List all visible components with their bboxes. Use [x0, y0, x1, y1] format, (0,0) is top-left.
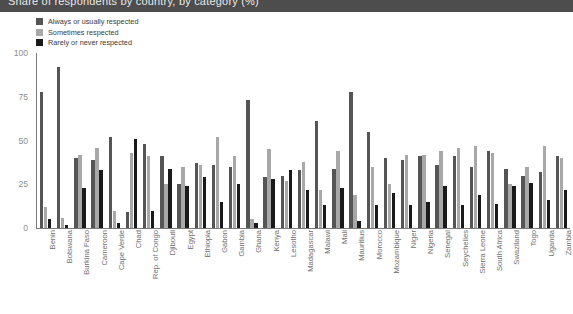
bar	[109, 137, 112, 228]
bar	[495, 204, 498, 229]
bar	[289, 170, 292, 228]
bar	[405, 155, 408, 229]
bar	[457, 148, 460, 229]
bar	[285, 181, 288, 228]
bar	[426, 202, 429, 228]
bar	[271, 179, 274, 228]
bar	[556, 156, 559, 228]
bar-group	[71, 53, 88, 228]
bar	[117, 223, 120, 228]
bar	[195, 163, 198, 228]
bar	[91, 160, 94, 228]
x-axis-label: Botswana	[65, 230, 74, 263]
bar	[521, 176, 524, 229]
bar	[254, 223, 257, 228]
x-axis-label: Ghana	[254, 230, 263, 253]
x-axis-label: Ethiopia	[203, 230, 212, 257]
x-axis-label: Morocco	[375, 230, 384, 259]
bar	[487, 151, 490, 228]
x-axis-label: Uganda	[547, 230, 556, 257]
bar-group	[123, 53, 140, 228]
bar	[529, 183, 532, 229]
bar-group	[243, 53, 260, 228]
x-axis-label: Mali	[340, 230, 349, 244]
bar	[474, 146, 477, 228]
legend-swatch-sometimes	[36, 29, 43, 36]
bar	[439, 151, 442, 228]
bar	[323, 205, 326, 228]
bar	[95, 148, 98, 229]
x-axis-label: Burkina Faso	[82, 230, 91, 275]
bar	[340, 188, 343, 228]
bar-group	[209, 53, 226, 228]
bar-group	[553, 53, 570, 228]
bar	[281, 176, 284, 229]
bar	[512, 186, 515, 228]
legend-label-rarely: Rarely or never respected	[48, 38, 132, 47]
legend-swatch-always	[36, 18, 43, 25]
bar-group	[261, 53, 278, 228]
x-axis-label: Seychelles	[461, 230, 470, 267]
x-axis-label: Mozambique	[392, 230, 401, 273]
bar	[375, 205, 378, 228]
x-axis-label: Djibouti	[168, 230, 177, 255]
bar	[525, 167, 528, 228]
bar	[267, 149, 270, 228]
bar	[357, 221, 360, 228]
y-axis-tick-label: 100	[0, 48, 28, 58]
bar	[306, 190, 309, 229]
x-axis-labels: BeninBotswanaBurkina FasoCameroonCape Ve…	[36, 230, 570, 314]
bar	[61, 218, 64, 229]
bar	[151, 211, 154, 229]
bar	[298, 170, 301, 228]
bar	[461, 205, 464, 228]
bar	[263, 177, 266, 228]
x-axis-label: Chad	[134, 230, 143, 248]
bar	[143, 144, 146, 228]
bar	[435, 165, 438, 228]
bar	[177, 184, 180, 228]
bar	[216, 137, 219, 228]
bar	[203, 177, 206, 228]
page-title: Share of respondents by country, by cate…	[8, 0, 259, 8]
bar	[168, 169, 171, 229]
x-axis-label: Madagascar	[306, 230, 315, 272]
legend-label-sometimes: Sometimes respected	[48, 28, 119, 37]
bar	[470, 167, 473, 228]
bar	[564, 190, 567, 229]
bar	[164, 184, 167, 228]
bar	[250, 219, 253, 228]
bar-group	[226, 53, 243, 228]
x-axis-label: Cape Verde	[117, 230, 126, 270]
x-axis-label: Gambia	[237, 230, 246, 257]
bar	[181, 167, 184, 228]
x-axis-label: Sierra Leone	[478, 230, 487, 273]
x-axis-label: Zambia	[564, 230, 573, 255]
x-axis-label: Togo	[529, 230, 538, 246]
chart-title-bar: Share of respondents by country, by cate…	[0, 0, 573, 12]
bar	[160, 156, 163, 228]
bar	[74, 158, 77, 228]
bar-group	[157, 53, 174, 228]
bar	[220, 202, 223, 228]
y-axis-tick-label: 75	[0, 92, 28, 102]
bar	[332, 169, 335, 229]
x-axis-line	[36, 228, 570, 229]
bar	[336, 151, 339, 228]
legend-label-always: Always or usually respected	[48, 17, 138, 26]
bar-group	[175, 53, 192, 228]
bar-group	[37, 53, 54, 228]
bar	[539, 172, 542, 228]
bar-group	[432, 53, 449, 228]
y-axis-tick-label: 0	[0, 223, 28, 233]
legend-item-always: Always or usually respected	[36, 17, 138, 26]
bar	[233, 156, 236, 228]
x-axis-label: Malawi	[323, 230, 332, 254]
bar-group	[295, 53, 312, 228]
plot-area: 0255075100	[36, 53, 570, 228]
x-axis-label: Egypt	[186, 230, 195, 249]
legend-item-sometimes: Sometimes respected	[36, 28, 138, 37]
bar-group	[415, 53, 432, 228]
bar-group	[467, 53, 484, 228]
bar	[443, 186, 446, 228]
